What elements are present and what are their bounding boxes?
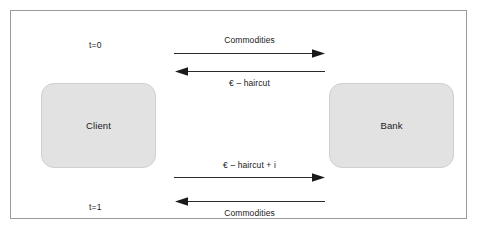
- arrow-left-icon: [174, 197, 325, 206]
- diagram-canvas: t=0 t=1 Client Bank Commodities: [0, 0, 481, 236]
- time-marker-t1: t=1: [89, 202, 102, 212]
- arrow-left-icon: [174, 67, 325, 76]
- arrow-right-icon: [174, 49, 325, 58]
- flow-commodities-t1: Commodities: [174, 197, 325, 227]
- party-label-client: Client: [86, 120, 111, 131]
- time-marker-t0: t=0: [89, 40, 102, 50]
- flow-euro-haircut-t0: € – haircut: [174, 67, 325, 97]
- party-box-bank: Bank: [329, 83, 454, 168]
- flow-label-euro-haircut-interest-t1: € – haircut + i: [174, 160, 325, 170]
- arrow-right-icon: [174, 173, 325, 182]
- diagram-frame: t=0 t=1 Client Bank Commodities: [10, 10, 467, 219]
- flow-label-commodities-t0: Commodities: [174, 35, 325, 45]
- flow-label-euro-haircut-t0: € – haircut: [174, 78, 325, 88]
- party-box-client: Client: [41, 83, 156, 168]
- party-label-bank: Bank: [380, 120, 402, 131]
- flow-commodities-t0: Commodities: [174, 35, 325, 65]
- flow-euro-haircut-interest-t1: € – haircut + i: [174, 160, 325, 190]
- flow-label-commodities-t1: Commodities: [174, 208, 325, 218]
